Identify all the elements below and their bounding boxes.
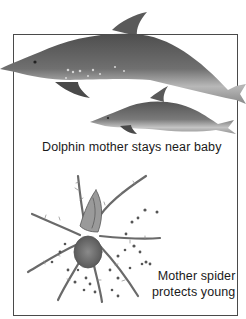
spider-caption: Mother spider protects young bbox=[152, 268, 235, 300]
spider-icon bbox=[28, 176, 160, 302]
spider-caption-line2: protects young bbox=[152, 284, 235, 300]
dolphin-caption: Dolphin mother stays near baby bbox=[42, 140, 221, 154]
adult-dolphin-icon bbox=[0, 12, 246, 104]
spider-caption-line1: Mother spider bbox=[152, 268, 235, 284]
